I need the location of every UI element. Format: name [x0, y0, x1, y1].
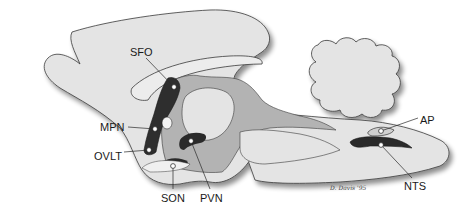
- mpn-oval: [162, 117, 172, 129]
- artist-signature: D. Davis '95: [329, 184, 367, 191]
- label-nts: NTS: [404, 180, 426, 192]
- label-ap: AP: [420, 114, 435, 126]
- label-pvn: PVN: [200, 192, 223, 204]
- label-ovlt: OVLT: [94, 150, 122, 162]
- label-mpn: MPN: [100, 121, 125, 133]
- label-sfo: SFO: [130, 46, 153, 58]
- brain-diagram: SFO MPN OVLT SON PVN AP NTS D. Davis '95: [0, 0, 463, 214]
- label-son: SON: [161, 192, 185, 204]
